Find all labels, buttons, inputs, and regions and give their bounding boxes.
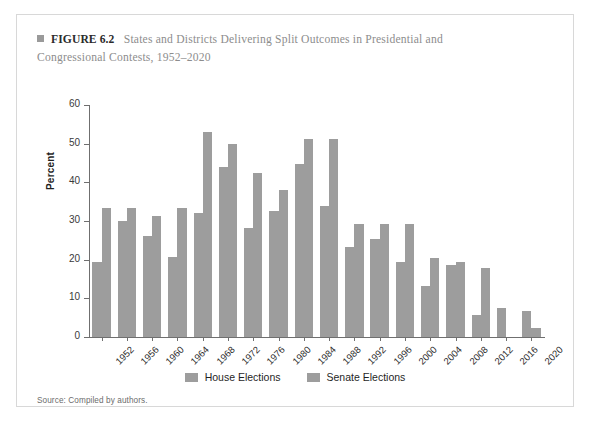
x-axis-tick-label: 1976 [264, 344, 287, 367]
bar-group [219, 105, 237, 337]
bar-senate-2000 [405, 224, 414, 337]
bar-senate-1980 [279, 190, 288, 337]
bar-group [194, 105, 212, 337]
bar-house-1980 [269, 211, 278, 337]
bar-senate-1972 [228, 144, 237, 337]
plot-area [89, 105, 544, 337]
bar-house-2016 [497, 308, 506, 337]
x-axis-tick-label: 1972 [239, 344, 262, 367]
bar-house-2008 [446, 265, 455, 337]
bar-group [244, 105, 262, 337]
figure-number: FIGURE 6.2 [51, 33, 114, 46]
x-axis-tick-label: 1952 [113, 344, 136, 367]
figure-title-block: FIGURE 6.2 States and Districts Deliveri… [37, 31, 537, 67]
legend-label-senate: Senate Elections [327, 371, 406, 383]
bar-senate-2004 [430, 258, 439, 337]
x-axis-tick [481, 337, 482, 341]
bar-house-1964 [168, 257, 177, 337]
bar-group [497, 105, 515, 337]
y-axis-tick-label: 50 [69, 137, 80, 148]
figure-caption-line-1: States and Districts Delivering Split Ou… [114, 33, 442, 46]
bar-house-1992 [345, 247, 354, 337]
y-axis-tick-label: 10 [69, 291, 80, 302]
y-axis-tick-label: 20 [69, 253, 80, 264]
y-axis-tick-label: 60 [69, 98, 80, 109]
x-axis-tick-label: 1964 [189, 344, 212, 367]
bar-senate-1952 [102, 208, 111, 337]
x-axis-tick [177, 337, 178, 341]
figure-caption-text-1: States and Districts Delivering Split Ou… [124, 33, 443, 46]
legend-item-senate: Senate Elections [307, 371, 406, 383]
x-axis-tick [253, 337, 254, 341]
bar-house-1968 [194, 213, 203, 337]
square-bullet-icon [37, 35, 44, 42]
legend-swatch-house [185, 373, 198, 382]
source-note: Source: Compiled by authors. [37, 396, 148, 405]
x-axis-tick [203, 337, 204, 341]
legend-swatch-senate [307, 373, 320, 382]
x-axis-tick-label: 1956 [138, 344, 161, 367]
figure-title-line-1: FIGURE 6.2 States and Districts Deliveri… [37, 31, 537, 49]
bar-senate-2012 [481, 268, 490, 337]
bar-house-1996 [370, 239, 379, 337]
bar-group [370, 105, 388, 337]
bar-house-1988 [320, 206, 329, 337]
x-axis-tick [152, 337, 153, 341]
bar-senate-1968 [203, 132, 212, 337]
x-axis-tick-label: 1960 [163, 344, 186, 367]
x-axis-tick-label: 1984 [315, 344, 338, 367]
bar-senate-1976 [253, 173, 262, 337]
bar-senate-1988 [329, 139, 338, 337]
bar-house-1984 [295, 164, 304, 337]
bar-house-2000 [396, 262, 405, 337]
x-axis-tick [506, 337, 507, 341]
x-axis-tick [102, 337, 103, 341]
bar-group [320, 105, 338, 337]
x-axis-tick-label: 1992 [366, 344, 389, 367]
bar-senate-2008 [456, 262, 465, 337]
bar-house-1976 [244, 228, 253, 337]
bar-house-2020 [522, 311, 531, 337]
bar-house-1956 [118, 221, 127, 337]
chart-legend: House Elections Senate Elections [17, 371, 573, 383]
x-axis-tick [354, 337, 355, 341]
bar-group [396, 105, 414, 337]
bar-senate-1992 [354, 224, 363, 337]
x-axis-tick-label: 2016 [517, 344, 540, 367]
bar-group [522, 105, 540, 337]
figure-title-line-2: Congressional Contests, 1952–2020 [37, 49, 537, 67]
bar-house-2012 [472, 315, 481, 337]
bar-group [472, 105, 490, 337]
x-axis-tick-label: 1988 [340, 344, 363, 367]
x-axis-tick [279, 337, 280, 341]
bar-group [345, 105, 363, 337]
x-axis-tick-label: 2020 [543, 344, 566, 367]
bar-senate-1960 [152, 216, 161, 337]
bar-senate-2020 [531, 328, 540, 337]
legend-label-house: House Elections [205, 371, 281, 383]
x-axis-tick [228, 337, 229, 341]
x-axis-tick-label: 2012 [492, 344, 515, 367]
x-axis-tick-label: 2000 [416, 344, 439, 367]
bar-group [168, 105, 186, 337]
x-axis-tick [329, 337, 330, 341]
bar-house-1972 [219, 167, 228, 337]
bar-group [118, 105, 136, 337]
y-axis-tick-label: 40 [69, 175, 80, 186]
x-axis-line: 1952195619601964196819721976198019841988… [89, 337, 545, 338]
x-axis-tick-label: 1980 [290, 344, 313, 367]
x-axis-tick [405, 337, 406, 341]
x-axis-tick-label: 1968 [214, 344, 237, 367]
legend-item-house: House Elections [185, 371, 281, 383]
bar-group [143, 105, 161, 337]
bar-senate-1996 [380, 224, 389, 337]
bar-house-1952 [92, 262, 101, 337]
bar-group [421, 105, 439, 337]
bar-group [446, 105, 464, 337]
x-axis-tick [127, 337, 128, 341]
bar-house-1960 [143, 236, 152, 337]
bar-senate-1984 [304, 139, 313, 337]
x-axis-tick-label: 2004 [441, 344, 464, 367]
y-axis-tick-label: 30 [69, 214, 80, 225]
bar-senate-1964 [177, 208, 186, 337]
